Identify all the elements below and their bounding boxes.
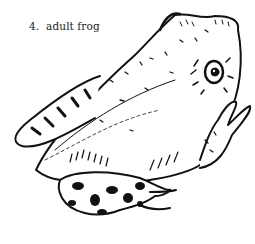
frog-illustration bbox=[0, 0, 255, 244]
